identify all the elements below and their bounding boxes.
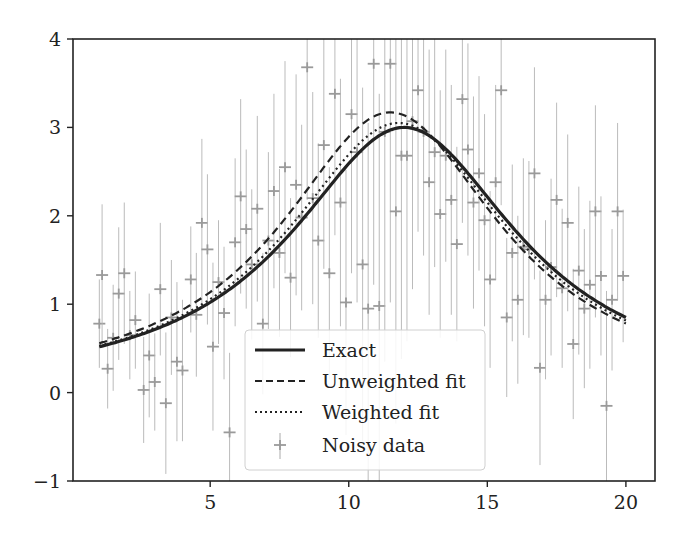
x-tick-label: 15 xyxy=(475,491,499,513)
legend-exact-label: Exact xyxy=(322,339,377,361)
y-tick-label: 2 xyxy=(49,205,61,227)
legend-weighted-label: Weighted fit xyxy=(322,401,439,423)
legend-unweighted-label: Unweighted fit xyxy=(322,370,466,392)
y-axis: −101234 xyxy=(33,28,73,492)
y-tick-label: 4 xyxy=(49,28,61,50)
chart-figure: 5101520 −101234 Exact Unweighted fit Wei… xyxy=(0,0,687,550)
x-axis: 5101520 xyxy=(204,481,638,513)
y-tick-label: 0 xyxy=(49,382,61,404)
y-tick-label: 1 xyxy=(49,293,61,315)
legend-noisy-label: Noisy data xyxy=(322,434,425,456)
x-tick-label: 20 xyxy=(614,491,638,513)
y-tick-label: −1 xyxy=(33,470,61,492)
y-tick-label: 3 xyxy=(49,116,61,138)
x-tick-label: 10 xyxy=(337,491,361,513)
legend: Exact Unweighted fit Weighted fit Noisy … xyxy=(245,330,485,470)
x-tick-label: 5 xyxy=(204,491,216,513)
